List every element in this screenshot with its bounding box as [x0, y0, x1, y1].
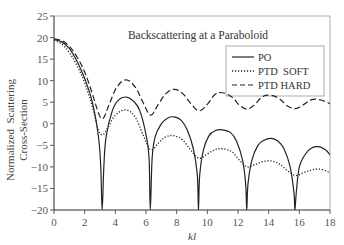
y-tick-label: 5 [43, 96, 49, 108]
y-ticks: 2520151050−5−10−15−20 [31, 10, 54, 216]
y-tick-label: −5 [36, 139, 48, 151]
x-axis-label: kl [188, 230, 196, 242]
x-tick-label: 16 [294, 216, 306, 228]
y-tick-label: 0 [43, 118, 49, 130]
x-tick-label: 10 [202, 216, 214, 228]
y-tick-label: 20 [37, 32, 49, 44]
legend-label-po: PO [258, 52, 272, 63]
x-tick-label: 8 [174, 216, 180, 228]
x-tick-label: 12 [233, 216, 244, 228]
legend-label-ptd-soft: PTD SOFT [258, 66, 309, 77]
y-tick-label: 10 [37, 75, 49, 87]
legend: PO PTD SOFT PTD HARD [226, 46, 324, 96]
x-tick-label: 14 [263, 216, 275, 228]
chart: 2520151050−5−10−15−20 024681012141618 Ba… [0, 0, 344, 245]
x-tick-label: 2 [82, 216, 88, 228]
y-tick-label: −20 [31, 204, 49, 216]
y-axis-label-line1: Normalized Scattering [4, 78, 16, 181]
y-tick-label: −15 [31, 182, 49, 194]
chart-title: Backscattering at a Paraboloid [128, 29, 268, 42]
x-tick-label: 6 [143, 216, 149, 228]
legend-label-ptd-hard: PTD HARD [258, 80, 311, 91]
x-tick-label: 18 [325, 216, 337, 228]
x-tick-label: 0 [51, 216, 57, 228]
y-axis-label: Normalized Scattering Cross-Section [4, 78, 29, 181]
x-ticks: 024681012141618 [51, 210, 336, 228]
y-tick-label: 25 [37, 10, 49, 22]
y-tick-label: −10 [31, 161, 49, 173]
y-axis-label-line2: Cross-Section [17, 99, 29, 161]
y-tick-label: 15 [37, 53, 49, 65]
plot-frame [54, 16, 330, 210]
x-tick-label: 4 [113, 216, 119, 228]
